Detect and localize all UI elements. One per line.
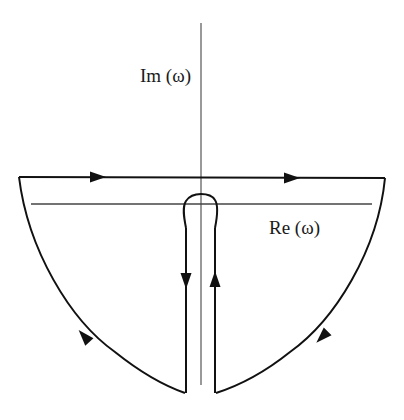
up-arrow-icon — [210, 271, 221, 287]
top-horizontal-path — [19, 177, 385, 178]
right-arrow-icon — [90, 172, 106, 183]
right-arrow-icon — [284, 173, 300, 184]
imaginary-axis-label: Im (ω) — [140, 66, 191, 85]
contour-diagram — [0, 0, 404, 420]
down-arrow-icon — [181, 273, 192, 289]
real-axis-label: Re (ω) — [269, 218, 320, 237]
left-arc-path — [19, 177, 185, 393]
right-arc-path — [216, 178, 385, 393]
up-left-arrow-icon — [75, 326, 94, 345]
